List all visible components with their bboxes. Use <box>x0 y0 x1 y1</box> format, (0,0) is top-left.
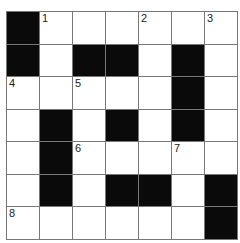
crossword-cell[interactable]: 8 <box>7 207 40 240</box>
crossword-cell[interactable]: 4 <box>7 77 40 110</box>
crossword-cell[interactable] <box>172 207 205 240</box>
black-square <box>205 175 238 208</box>
crossword-cell[interactable] <box>7 142 40 175</box>
crossword-cell[interactable] <box>139 142 172 175</box>
crossword-cell[interactable] <box>106 12 139 45</box>
clue-number: 5 <box>75 78 81 89</box>
crossword-cell[interactable] <box>205 110 238 143</box>
crossword-cell[interactable] <box>73 207 106 240</box>
crossword-cell[interactable] <box>106 207 139 240</box>
crossword-cell[interactable] <box>139 77 172 110</box>
black-square <box>139 175 172 208</box>
clue-number: 6 <box>75 143 81 154</box>
black-square <box>106 175 139 208</box>
crossword-cell[interactable] <box>73 110 106 143</box>
black-square <box>106 45 139 78</box>
crossword-cell[interactable] <box>139 207 172 240</box>
black-square <box>7 12 40 45</box>
black-square <box>205 207 238 240</box>
black-square <box>172 45 205 78</box>
black-square <box>7 45 40 78</box>
clue-number: 3 <box>207 13 213 24</box>
crossword-cell[interactable]: 2 <box>139 12 172 45</box>
clue-number: 8 <box>9 208 15 219</box>
crossword-cell[interactable] <box>7 110 40 143</box>
black-square <box>73 45 106 78</box>
clue-number: 4 <box>9 78 15 89</box>
crossword-cell[interactable] <box>172 175 205 208</box>
crossword-cell[interactable] <box>106 77 139 110</box>
black-square <box>40 110 73 143</box>
crossword-cell[interactable]: 1 <box>40 12 73 45</box>
crossword-cell[interactable] <box>73 12 106 45</box>
crossword-cell[interactable] <box>7 175 40 208</box>
crossword-cell[interactable] <box>139 110 172 143</box>
crossword-cell[interactable] <box>205 45 238 78</box>
clue-number: 7 <box>174 143 180 154</box>
crossword-cell[interactable] <box>40 207 73 240</box>
crossword-cell[interactable] <box>40 77 73 110</box>
crossword-cell[interactable] <box>205 77 238 110</box>
crossword-cell[interactable] <box>172 12 205 45</box>
black-square <box>172 110 205 143</box>
crossword-cell[interactable]: 6 <box>73 142 106 175</box>
crossword-cell[interactable] <box>106 142 139 175</box>
black-square <box>172 77 205 110</box>
clue-number: 1 <box>42 13 48 24</box>
black-square <box>40 175 73 208</box>
crossword-grid: 12345678 <box>6 11 238 240</box>
clue-number: 2 <box>141 13 147 24</box>
crossword-cell[interactable] <box>205 142 238 175</box>
crossword-cell[interactable] <box>40 45 73 78</box>
crossword-cell[interactable] <box>139 45 172 78</box>
crossword-cell[interactable]: 5 <box>73 77 106 110</box>
black-square <box>106 110 139 143</box>
crossword-cell[interactable] <box>73 175 106 208</box>
black-square <box>40 142 73 175</box>
crossword-cell[interactable]: 3 <box>205 12 238 45</box>
crossword-cell[interactable]: 7 <box>172 142 205 175</box>
